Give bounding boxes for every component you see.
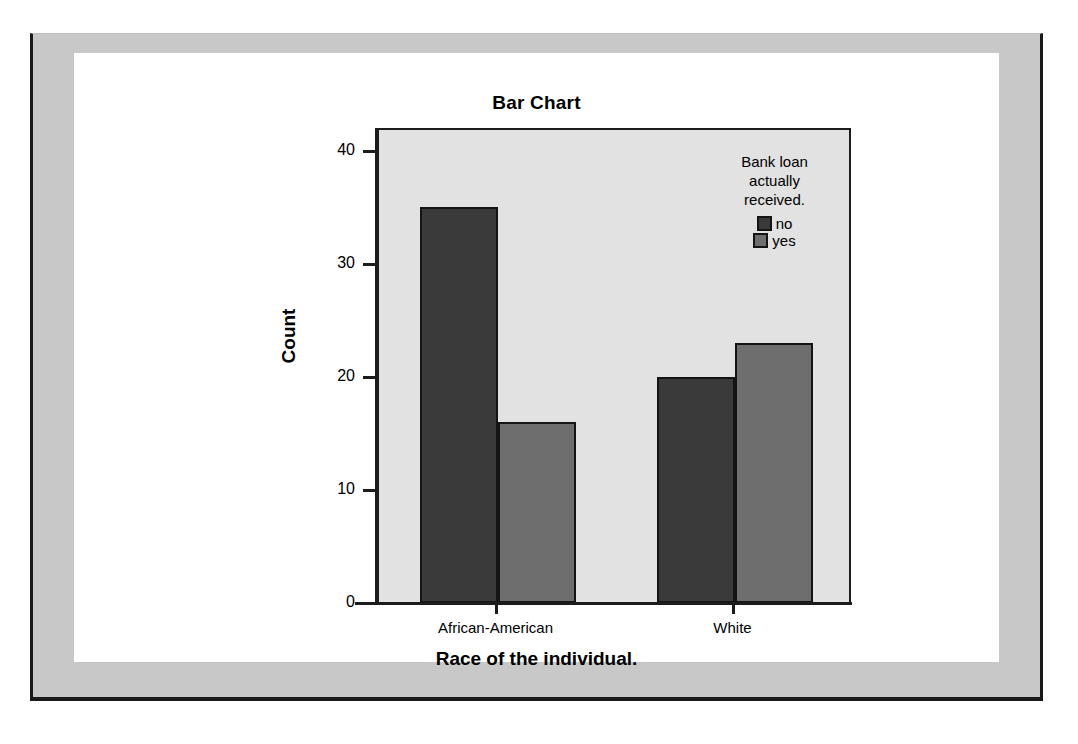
legend-label: yes xyxy=(772,233,795,248)
y-axis-tick-label: 10 xyxy=(307,480,355,498)
legend-item: yes xyxy=(753,233,795,248)
chart-canvas: Bar Chart Bank loan actually received. n… xyxy=(74,53,999,662)
x-axis-title: Race of the individual. xyxy=(74,648,999,670)
y-axis-tick xyxy=(363,602,376,605)
legend-title-line-1: Bank loan xyxy=(712,152,837,171)
y-axis-tick-label: 0 xyxy=(307,593,355,611)
legend-title: Bank loan actually received. xyxy=(712,152,837,209)
y-axis-tick-label: 40 xyxy=(307,141,355,159)
x-axis-tick xyxy=(732,602,735,614)
x-axis-tick xyxy=(495,602,498,614)
legend-items: noyes xyxy=(712,216,837,250)
legend-swatch-yes xyxy=(753,233,768,248)
bar xyxy=(657,377,735,603)
y-axis-tick xyxy=(363,489,376,492)
chart-legend: Bank loan actually received. noyes xyxy=(712,152,837,250)
y-axis-tick xyxy=(363,150,376,153)
legend-title-line-2: actually xyxy=(712,171,837,190)
bar xyxy=(420,207,498,603)
x-axis-tick-label: African-American xyxy=(386,619,606,636)
legend-item: no xyxy=(757,216,793,231)
bar xyxy=(735,343,813,603)
y-axis-title: Count xyxy=(278,276,300,396)
legend-title-line-3: received. xyxy=(712,190,837,209)
x-axis-line xyxy=(355,602,852,605)
plot-area: Bank loan actually received. noyes xyxy=(377,128,851,603)
x-axis-tick-label: White xyxy=(623,619,843,636)
chart-title: Bar Chart xyxy=(74,92,999,114)
legend-label: no xyxy=(776,216,793,231)
y-axis-tick xyxy=(363,263,376,266)
scanned-page-frame: Bar Chart Bank loan actually received. n… xyxy=(30,33,1043,701)
legend-swatch-no xyxy=(757,216,772,231)
y-axis-tick-label: 30 xyxy=(307,254,355,272)
y-axis-tick xyxy=(363,376,376,379)
bar xyxy=(498,422,576,603)
y-axis-line xyxy=(375,128,378,605)
y-axis-tick-label: 20 xyxy=(307,367,355,385)
